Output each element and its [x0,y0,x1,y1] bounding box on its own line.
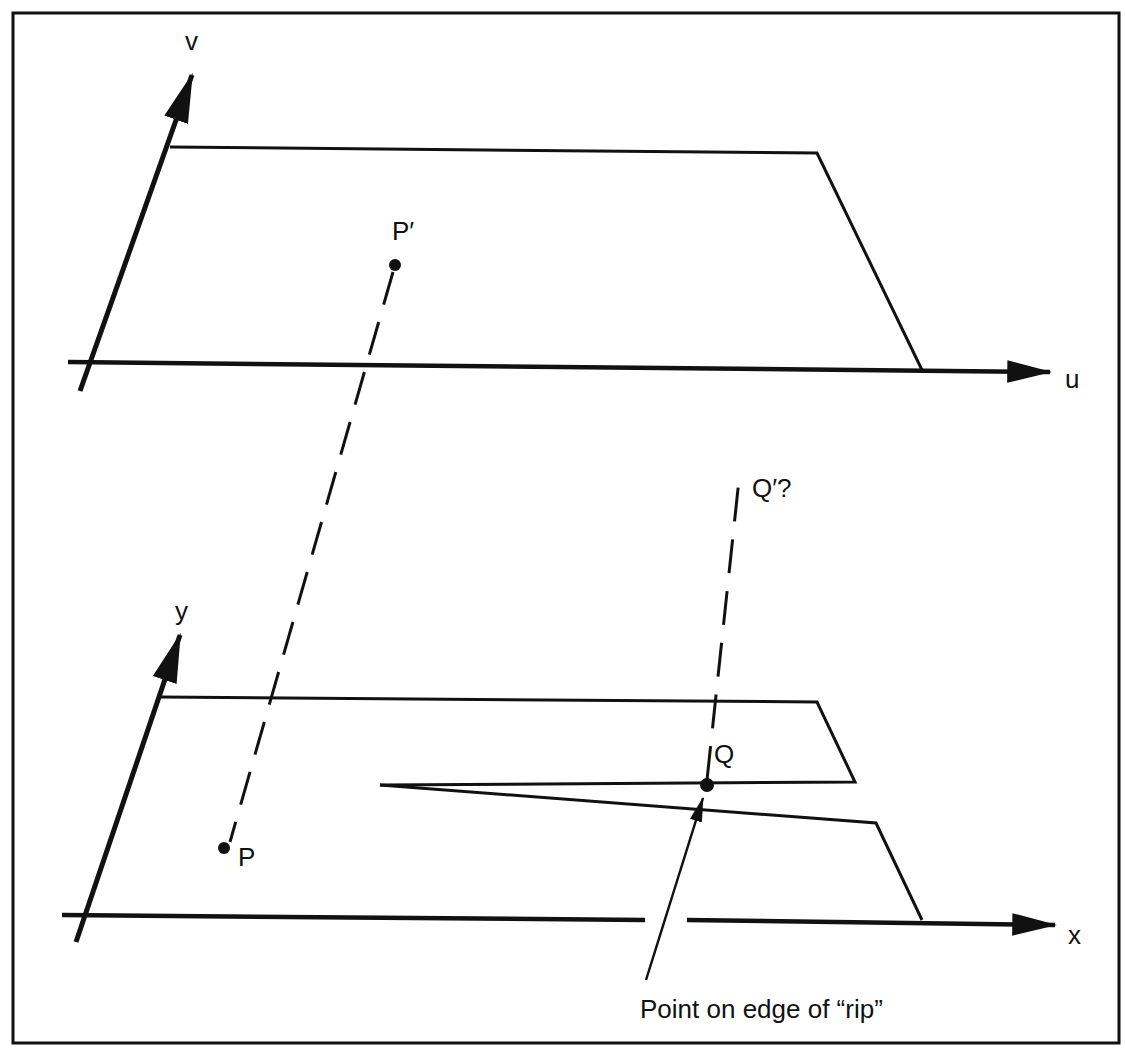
u-axis [68,362,1050,372]
annotation-pointer [646,798,703,980]
label-p: P [238,842,255,872]
top-panel: P′ v u [68,26,1079,394]
x-axis-left [62,915,645,920]
diagram-canvas: P′ v u P Q Q′? Point on edge of “rip” y … [0,0,1125,1056]
annotation-rip-edge: Point on edge of “rip” [640,994,883,1024]
v-axis [80,75,192,391]
point-p-prime [389,259,401,271]
label-q-prime-question: Q′? [752,473,792,503]
shape-lower-piece [380,785,922,920]
label-x-axis: x [1068,920,1081,950]
label-u-axis: u [1065,364,1079,394]
x-axis-right [687,920,1055,925]
point-q [700,778,714,792]
shape-upper-piece [161,697,855,785]
texture-shape [170,147,922,370]
figure-frame [13,13,1119,1043]
projection-line-p [230,272,393,842]
point-p [218,842,230,854]
label-y-axis: y [175,596,188,626]
label-p-prime: P′ [392,216,414,246]
bottom-panel: P Q Q′? Point on edge of “rip” y x [62,470,1081,1024]
label-v-axis: v [185,26,198,56]
projection-line-q [707,470,740,780]
label-q: Q [714,739,734,769]
y-axis [76,635,180,942]
